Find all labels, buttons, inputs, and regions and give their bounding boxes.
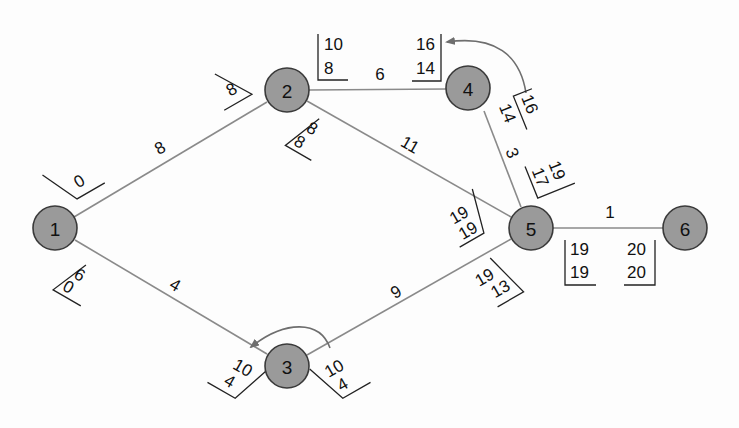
node-5: 5 — [509, 206, 553, 250]
edge-4-5 — [484, 111, 521, 207]
time-box-3-5-start: 10 4 — [310, 346, 371, 405]
edge-1-2-duration: 8 — [151, 137, 169, 158]
time-value: 0 — [71, 171, 89, 192]
edge-3-5 — [307, 239, 511, 355]
edge-3-5-duration: 9 — [387, 281, 405, 302]
node-label: 2 — [282, 81, 293, 102]
time-box-1-3-end: 10 4 — [207, 346, 268, 405]
time-box-4-5-start: 16 14 — [493, 88, 546, 137]
edge-2-4 — [309, 89, 446, 90]
time-box-1-3-start: 6 0 — [53, 257, 100, 306]
edge-2-4-duration: 6 — [375, 65, 384, 84]
time-value-top: 16 — [416, 35, 435, 54]
time-value-bottom: 14 — [495, 101, 520, 126]
node-label: 6 — [680, 219, 691, 240]
node-1: 1 — [33, 206, 77, 250]
node-label: 1 — [50, 219, 61, 240]
edge-5-6-duration: 1 — [605, 203, 614, 222]
time-box-2-5-end: 19 19 — [438, 189, 495, 247]
node-3: 3 — [265, 344, 309, 388]
edge-1-2 — [74, 102, 267, 217]
node-4: 4 — [446, 66, 490, 110]
network-diagram: 8 4 6 11 9 3 1 0 8 6 0 10 4 10 8 16 14 8 — [0, 0, 739, 428]
time-value-top: 20 — [627, 240, 646, 259]
time-box-2-4-end: 16 14 — [412, 34, 441, 81]
edge-1-3-duration: 4 — [166, 274, 184, 295]
time-value-bottom: 20 — [627, 263, 646, 282]
time-value-bottom: 4 — [221, 371, 239, 392]
time-value-bottom: 14 — [416, 59, 435, 78]
time-box-5-6-end: 20 20 — [624, 240, 655, 286]
edge-2-5 — [307, 101, 511, 217]
time-value: 8 — [223, 79, 241, 100]
edge-4-5-duration: 3 — [501, 145, 522, 161]
node-label: 5 — [526, 219, 537, 240]
time-value-bottom: 19 — [570, 263, 589, 282]
diagram-canvas: 8 4 6 11 9 3 1 0 8 6 0 10 4 10 8 16 14 8 — [0, 0, 739, 428]
time-box-4-5-end: 19 17 — [525, 152, 575, 199]
node-label: 3 — [282, 357, 293, 378]
time-value-top: 10 — [324, 35, 343, 54]
time-box-5-6-start: 19 19 — [565, 240, 596, 286]
edge-1-3 — [75, 240, 267, 354]
time-box-1-2-start: 0 — [42, 150, 104, 208]
node-label: 4 — [463, 79, 474, 100]
time-value-top: 16 — [517, 92, 542, 117]
time-box-2-5-start: 8 8 — [285, 111, 331, 161]
time-box-3-5-end: 19 13 — [469, 252, 523, 310]
node-6: 6 — [663, 206, 707, 250]
time-box-1-2-end: 8 — [206, 63, 252, 110]
time-value-bottom: 8 — [324, 59, 333, 78]
time-value-top: 19 — [570, 240, 589, 259]
time-box-2-4-start: 10 8 — [318, 34, 348, 80]
node-2: 2 — [265, 68, 309, 112]
